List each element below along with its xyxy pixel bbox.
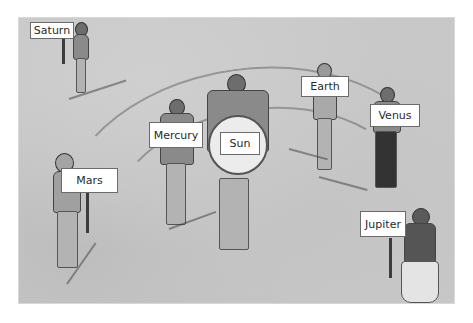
venus-label: Venus [370,104,420,127]
earth-label: Earth [301,76,349,97]
sun-label: Sun [220,132,260,155]
mars-label: Mars [61,168,118,193]
mercury-label: Mercury [149,122,203,148]
solar-system-illustration: Saturn Mercury Sun Earth Venus Mars Jupi… [18,17,455,304]
saturn-label: Saturn [30,22,74,39]
jupiter-label: Jupiter [360,211,406,237]
